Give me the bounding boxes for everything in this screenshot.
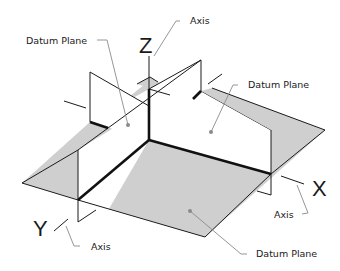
svg-text:Datum Plane: Datum Plane — [248, 79, 309, 90]
x-axis-label: X — [312, 176, 327, 201]
callout-axis-right: Axis — [274, 185, 308, 220]
callout-axis-top: Axis — [154, 15, 210, 56]
svg-text:Datum Plane: Datum Plane — [26, 35, 87, 46]
z-axis-label: Z — [139, 33, 152, 58]
svg-text:Axis: Axis — [91, 241, 111, 252]
svg-text:Axis: Axis — [190, 15, 210, 26]
svg-text:Axis: Axis — [274, 209, 294, 220]
y-axis-label: Y — [33, 216, 48, 241]
svg-text:Datum Plane: Datum Plane — [256, 248, 317, 259]
datum-planes-diagram: Z X Y Datum Plane Axis Datum Plane Axis … — [0, 0, 340, 271]
